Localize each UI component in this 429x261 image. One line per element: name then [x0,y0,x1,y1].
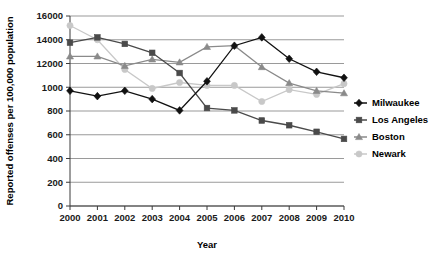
x-tick-label: 2006 [224,212,245,223]
x-tick-label: 2007 [251,212,272,223]
legend-item-milwaukee[interactable]: Milwaukee [354,97,420,108]
y-tick-label: 600 [47,129,63,140]
data-point-marker [94,92,101,100]
data-point-marker [149,85,155,91]
x-tick-label: 2000 [59,212,80,223]
data-point-marker [177,70,183,76]
axes-group [66,16,344,210]
y-tick-label: 16000 [37,10,63,21]
data-point-marker [259,118,265,124]
data-point-marker [341,136,347,142]
data-point-marker [231,82,237,88]
data-point-marker [286,80,293,86]
y-tick-label: 0 [58,200,63,211]
x-tick-label: 2010 [333,212,354,223]
data-series-group [67,22,348,141]
x-tick-label: 2008 [279,212,300,223]
data-point-marker [122,41,128,47]
y-tick-label: 12000 [37,58,63,69]
data-point-marker [286,87,292,93]
data-point-marker [149,50,155,56]
y-tick-label: 200 [47,177,63,188]
data-point-marker [121,87,128,95]
x-tick-label: 2004 [169,212,191,223]
data-point-marker [313,68,320,76]
data-point-marker [177,79,183,85]
y-axis-title: Reported offenses per 100,000 population [4,16,15,205]
y-tick-label: 1000 [42,82,63,93]
legend-label: Milwaukee [372,97,420,108]
data-point-marker [286,122,292,128]
data-point-marker [356,151,362,157]
legend-item-newark[interactable]: Newark [354,148,407,159]
x-tick-label: 2001 [87,212,109,223]
legend-label: Los Angeles [372,114,428,125]
data-point-marker [356,99,363,107]
data-point-marker [67,40,73,46]
legend-item-los-angeles[interactable]: Los Angeles [354,114,428,125]
data-point-marker [232,108,238,114]
x-axis-title: Year [197,239,217,250]
x-tick-label: 2005 [196,212,218,223]
data-point-marker [356,117,362,123]
chart-container: 02004006008001000120001400016000 2000200… [0,0,429,261]
data-point-marker [67,22,73,28]
data-point-marker [95,35,101,41]
y-tick-label: 14000 [37,34,63,45]
data-point-marker [341,74,348,82]
data-point-marker [204,105,210,111]
data-point-marker [259,98,265,104]
x-tick-label: 2003 [142,212,163,223]
legend-item-boston[interactable]: Boston [354,131,405,142]
data-point-marker [149,56,156,62]
data-point-marker [314,129,320,135]
data-point-marker [149,95,156,103]
y-axis-tick-labels: 02004006008001000120001400016000 [37,10,63,211]
x-axis-tick-labels: 2000200120022003200420052006200720082009… [59,212,354,223]
chart-legend: MilwaukeeLos AngelesBostonNewark [354,97,428,159]
y-tick-label: 800 [47,105,63,116]
legend-label: Newark [372,148,407,159]
line-chart: 02004006008001000120001400016000 2000200… [0,0,429,261]
legend-label: Boston [372,131,405,142]
x-tick-label: 2009 [306,212,327,223]
data-point-marker [67,87,74,95]
y-tick-label: 400 [47,153,63,164]
x-tick-label: 2002 [114,212,135,223]
